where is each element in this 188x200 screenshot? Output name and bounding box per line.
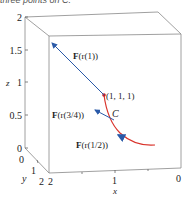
z-tick-1: 1 xyxy=(17,77,22,88)
x-axis-label: x xyxy=(112,186,117,196)
x-tick-1: 1 xyxy=(112,175,117,186)
vector-label-f-r3-4: F(r(3/4)) xyxy=(52,110,84,120)
point-label: (1, 1, 1) xyxy=(106,91,135,101)
vector-label-f-r1: F(r(1)) xyxy=(73,51,98,61)
z-tick-0-5: 0.5 xyxy=(10,110,23,121)
y-axis-label: y xyxy=(21,173,27,184)
vector-label-f-r1-2: F(r(1/2)) xyxy=(76,140,108,150)
y-tick-2: 2 xyxy=(39,176,44,187)
vector-field-figure: 2 1.5 1 0.5 0 z 0 1 2 y 2 1 0 x (1, 1, 1… xyxy=(0,0,188,200)
z-tick-2: 2 xyxy=(17,12,22,23)
z-axis-ticks xyxy=(25,17,28,148)
curve-label: C xyxy=(112,108,119,119)
z-axis-label: z xyxy=(5,78,10,88)
y-tick-1: 1 xyxy=(31,165,36,176)
z-tick-0: 0 xyxy=(17,143,22,154)
x-tick-0: 0 xyxy=(176,173,181,184)
y-tick-0: 0 xyxy=(19,154,24,165)
y-axis-ticks xyxy=(37,160,38,163)
z-tick-1-5: 1.5 xyxy=(10,45,23,56)
curve-c xyxy=(104,95,155,145)
x-tick-2: 2 xyxy=(48,176,53,187)
